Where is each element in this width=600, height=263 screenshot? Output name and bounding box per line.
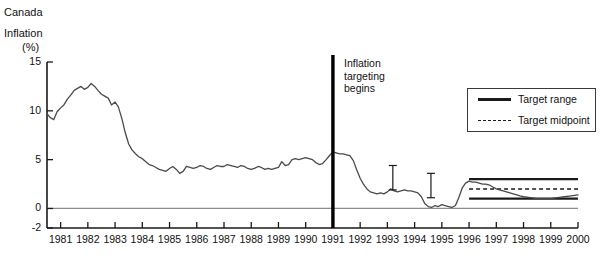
- legend-label-target-range: Target range: [518, 93, 577, 105]
- legend-label-target-midpoint: Target midpoint: [518, 114, 590, 126]
- y-axis-label-0: 0: [15, 201, 41, 213]
- y-axis-label-10: 10: [15, 104, 41, 116]
- y-axis-label-5: 5: [15, 153, 41, 165]
- x-axis-label-2000: 2000: [561, 233, 595, 245]
- chart-canvas: Canada Inflation (%) Inflation targeting…: [0, 0, 600, 263]
- legend-item-target-range: Target range: [468, 89, 595, 110]
- legend-item-target-midpoint: Target midpoint: [468, 110, 595, 131]
- y-axis-label--2: -2: [15, 221, 41, 233]
- chart-legend: Target range Target midpoint: [467, 88, 596, 132]
- y-axis-label-15: 15: [15, 55, 41, 67]
- target-range-swatch-icon: [478, 98, 511, 101]
- target-midpoint-swatch-icon: [478, 120, 511, 121]
